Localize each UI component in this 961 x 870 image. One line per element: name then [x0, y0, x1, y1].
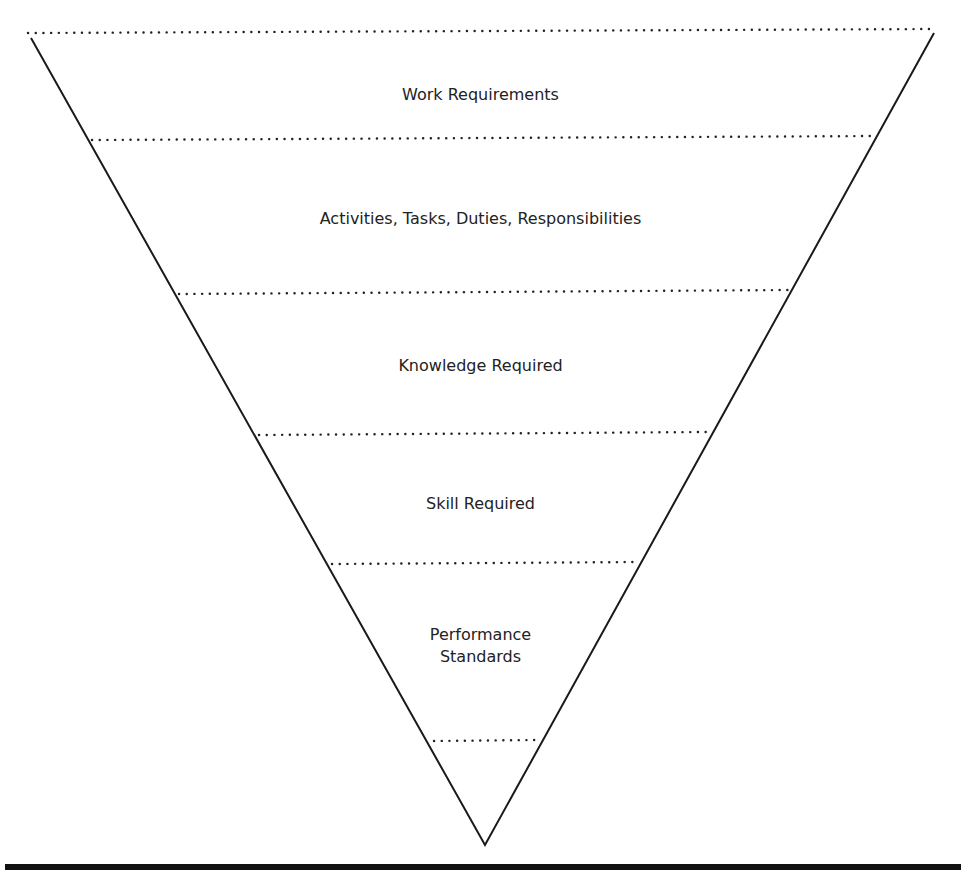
divider-top: [28, 29, 935, 33]
divider-2: [179, 290, 788, 294]
divider-1: [92, 136, 876, 140]
divider-4: [332, 562, 636, 564]
layer-label-performance-standards: Performance Standards: [0, 624, 961, 668]
divider-3: [259, 432, 706, 435]
divider-5: [434, 740, 536, 741]
layer-label-work-requirements: Work Requirements: [0, 84, 961, 106]
layer-label-activities: Activities, Tasks, Duties, Responsibilit…: [0, 208, 961, 230]
pyramid-outline: [31, 33, 934, 845]
bottom-bar: [5, 864, 961, 870]
layer-label-skill: Skill Required: [0, 493, 961, 515]
layer-label-knowledge: Knowledge Required: [0, 355, 961, 377]
inverted-pyramid-diagram: [0, 0, 961, 870]
